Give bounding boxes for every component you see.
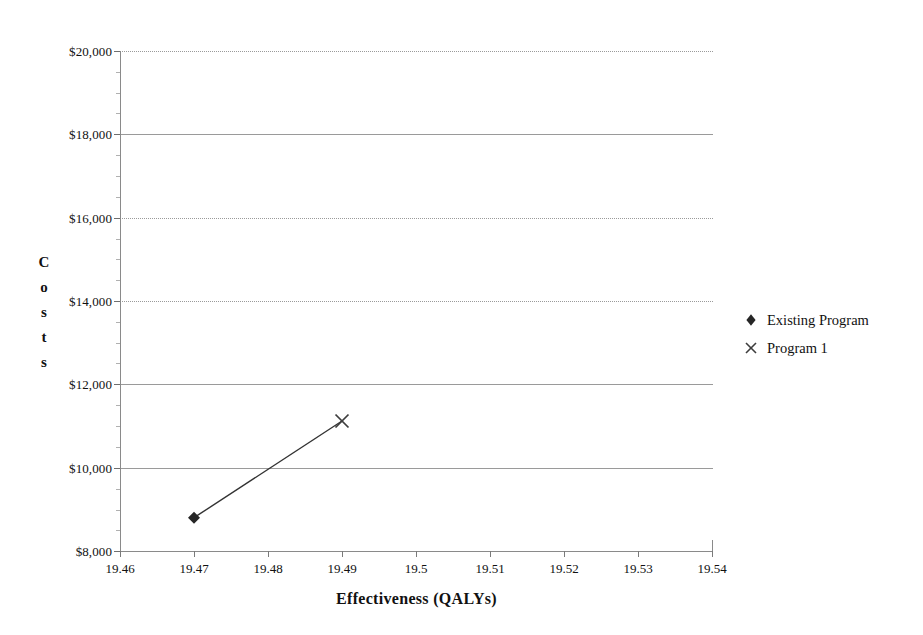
data-point-x[interactable] <box>336 415 349 428</box>
x-axis-label-cell: 19.54 <box>672 561 752 579</box>
legend-item-program-1[interactable]: Program 1 <box>742 334 912 362</box>
x-axis-label-cell: 19.53 <box>598 561 678 579</box>
y-axis-tick-label: $14,000 <box>54 295 112 308</box>
y-axis-title-letter: o <box>34 275 54 300</box>
y-axis-label-cell: $20,000 <box>48 45 112 58</box>
x-axis-tick-label: 19.46 <box>80 561 160 577</box>
x-tick <box>712 551 713 557</box>
y-axis-label-cell: $12,000 <box>48 378 112 391</box>
y-axis-title: C o s t s <box>34 250 54 375</box>
gridline-10000 <box>120 468 713 469</box>
gridline-14000 <box>120 301 713 302</box>
y-tick-minor <box>116 426 120 427</box>
x-axis-tick-label: 19.54 <box>672 561 752 577</box>
x-axis-tick-label: 19.53 <box>598 561 678 577</box>
y-tick-12000 <box>114 384 120 385</box>
y-axis-tick-label: $8,000 <box>54 545 112 558</box>
y-tick-10000 <box>114 468 120 469</box>
y-tick-minor <box>116 343 120 344</box>
gridline-12000 <box>120 384 713 385</box>
gridline-20000 <box>120 51 713 52</box>
y-axis-title-letter: t <box>34 325 54 350</box>
y-axis-title-letter: s <box>34 350 54 375</box>
y-tick-minor <box>116 113 120 114</box>
x-axis-label-cell: 19.5 <box>376 561 456 579</box>
cost-effectiveness-chart: $20,000 $18,000 $16,000 $14,000 $12,000 … <box>0 0 923 635</box>
data-point-diamond[interactable] <box>188 512 200 524</box>
x-axis-tick-label: 19.51 <box>450 561 530 577</box>
y-axis-label-cell: $8,000 <box>48 545 112 558</box>
y-axis-tick-label: $20,000 <box>54 45 112 58</box>
y-axis-title-letter: s <box>34 300 54 325</box>
gridline-16000 <box>120 218 713 219</box>
y-axis-label-cell: $10,000 <box>48 462 112 475</box>
x-axis-label-cell: 19.47 <box>154 561 234 579</box>
y-axis-line <box>120 51 121 551</box>
x-axis-tick-label: 19.47 <box>154 561 234 577</box>
x-axis-tick-label: 19.49 <box>302 561 382 577</box>
y-axis-tick-label: $16,000 <box>54 212 112 225</box>
y-tick-14000 <box>114 301 120 302</box>
x-tick <box>194 551 195 557</box>
x-axis-tick-label: 19.48 <box>228 561 308 577</box>
y-axis-label-cell: $14,000 <box>48 295 112 308</box>
legend-label: Program 1 <box>767 339 828 357</box>
x-axis-title: Effectiveness (QALYs) <box>120 590 713 608</box>
x-tick <box>120 551 121 557</box>
y-tick-minor <box>116 176 120 177</box>
y-tick-minor <box>116 363 120 364</box>
y-tick-minor <box>116 93 120 94</box>
y-axis-title-letter: C <box>34 250 54 275</box>
x-axis-label-cell: 19.51 <box>450 561 530 579</box>
y-tick-minor <box>116 530 120 531</box>
x-tick <box>342 551 343 557</box>
y-tick-20000 <box>114 51 120 52</box>
y-tick-minor <box>116 259 120 260</box>
y-tick-minor <box>116 280 120 281</box>
legend-item-existing-program[interactable]: Existing Program <box>742 306 912 334</box>
x-axis-label-cell: 19.48 <box>228 561 308 579</box>
x-axis-label-cell: 19.46 <box>80 561 160 579</box>
x-tick <box>638 551 639 557</box>
y-tick-16000 <box>114 218 120 219</box>
y-tick-minor <box>116 510 120 511</box>
x-tick <box>268 551 269 557</box>
legend-label: Existing Program <box>767 311 869 329</box>
x-marker-icon <box>742 339 760 357</box>
y-axis-tick-label: $18,000 <box>54 128 112 141</box>
y-tick-minor <box>116 155 120 156</box>
y-axis-label-cell: $18,000 <box>48 128 112 141</box>
y-axis-label-cell: $16,000 <box>48 212 112 225</box>
diamond-marker-icon <box>742 311 760 329</box>
x-axis-label-cell: 19.49 <box>302 561 382 579</box>
y-axis-tick-label: $10,000 <box>54 462 112 475</box>
y-tick-minor <box>116 197 120 198</box>
x-tick <box>564 551 565 557</box>
x-tick <box>416 551 417 557</box>
y-tick-minor <box>116 405 120 406</box>
y-tick-minor <box>116 322 120 323</box>
y-tick-18000 <box>114 134 120 135</box>
x-axis-tick-label: 19.52 <box>524 561 604 577</box>
connector-line <box>194 421 342 518</box>
gridline-18000 <box>120 134 713 135</box>
x-axis-tick-label: 19.5 <box>376 561 456 577</box>
y-tick-minor <box>116 239 120 240</box>
legend: Existing Program Program 1 <box>742 306 912 362</box>
x-tick <box>490 551 491 557</box>
y-tick-minor <box>116 447 120 448</box>
y-axis-tick-label: $12,000 <box>54 378 112 391</box>
y-tick-minor <box>116 72 120 73</box>
x-axis-label-cell: 19.52 <box>524 561 604 579</box>
y-tick-minor <box>116 489 120 490</box>
